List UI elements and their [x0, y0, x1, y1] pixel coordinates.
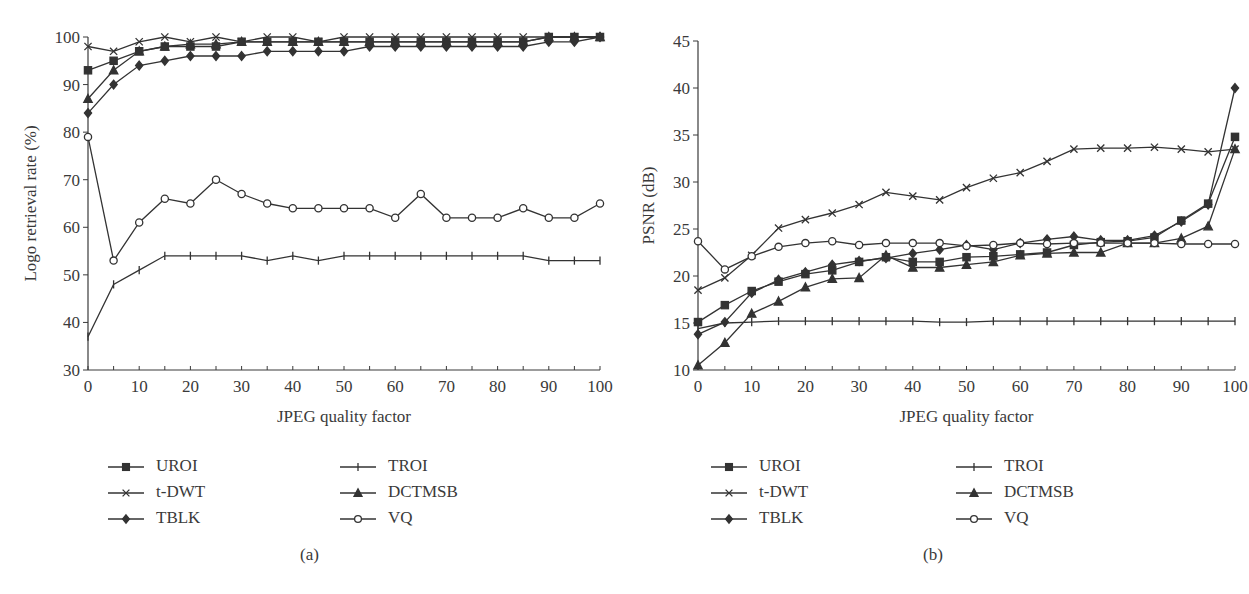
circle-marker-icon — [443, 214, 450, 221]
circle-marker-icon — [856, 241, 863, 248]
legend-label: VQ — [388, 508, 413, 528]
legend-label: UROI — [759, 456, 801, 476]
diamond-marker-icon — [909, 249, 916, 258]
circle-marker-icon — [161, 195, 168, 202]
diamond-legend-icon — [711, 511, 747, 525]
axes: 01020304050607080901001015202530354045 — [673, 32, 1248, 396]
x-tick-label: 70 — [438, 377, 455, 396]
circle-marker-icon — [721, 266, 728, 273]
x-marker-icon — [963, 184, 970, 191]
circle-marker-icon — [187, 200, 194, 207]
diamond-marker-icon — [136, 61, 143, 70]
x-tick-label: 50 — [336, 377, 353, 396]
legend-label: DCTMSB — [1004, 482, 1074, 502]
caption-a: (a) — [300, 545, 319, 565]
circle-legend-icon — [956, 511, 992, 525]
triangle-legend-icon — [956, 485, 992, 499]
circle-marker-icon — [392, 214, 399, 221]
legend-item-vq: VQ — [956, 507, 1029, 529]
circle-marker-icon — [1070, 240, 1077, 247]
circle-marker-icon — [84, 133, 91, 140]
triangle-marker-icon — [1204, 222, 1212, 230]
legend-item-troi: TROI — [956, 455, 1044, 477]
square-marker-icon — [726, 464, 733, 471]
circle-marker-icon — [571, 214, 578, 221]
y-tick-label: 25 — [673, 220, 690, 239]
diamond-marker-icon — [123, 515, 130, 523]
plus-legend-icon — [340, 459, 376, 473]
triangle-marker-icon — [109, 66, 117, 74]
series-t-dwt — [694, 144, 1238, 294]
legend-label: UROI — [156, 456, 198, 476]
square-marker-icon — [123, 464, 130, 471]
x-tick-label: 30 — [851, 377, 868, 396]
circle-marker-icon — [1205, 240, 1212, 247]
circle-marker-icon — [212, 176, 219, 183]
y-tick-label: 35 — [673, 126, 690, 145]
x-tick-label: 0 — [694, 377, 703, 396]
x-tick-label: 10 — [743, 377, 760, 396]
plus-legend-icon — [956, 459, 992, 473]
x-tick-label: 30 — [233, 377, 250, 396]
square-marker-icon — [721, 302, 728, 309]
y-tick-label: 30 — [673, 173, 690, 192]
series-vq — [84, 133, 603, 264]
circle-marker-icon — [289, 205, 296, 212]
x-tick-label: 80 — [1119, 377, 1136, 396]
x-tick-label: 0 — [84, 377, 93, 396]
x-marker-icon — [1043, 158, 1050, 165]
circle-marker-icon — [110, 257, 117, 264]
circle-marker-icon — [936, 240, 943, 247]
circle-marker-icon — [882, 240, 889, 247]
legend-label: DCTMSB — [388, 482, 458, 502]
diamond-marker-icon — [161, 56, 168, 65]
x-tick-label: 10 — [131, 377, 148, 396]
x-tick-label: 60 — [1012, 377, 1029, 396]
legend-label: TBLK — [156, 508, 200, 528]
legend-item-t-dwt: t-DWT — [108, 481, 205, 503]
diamond-marker-icon — [340, 47, 347, 56]
legend-item-uroi: UROI — [711, 455, 801, 477]
x-tick-label: 20 — [182, 377, 199, 396]
circle-marker-icon — [545, 214, 552, 221]
y-tick-label: 10 — [673, 361, 690, 380]
legend-label: VQ — [1004, 508, 1029, 528]
circle-marker-icon — [315, 205, 322, 212]
y-tick-label: 60 — [63, 218, 80, 237]
circle-marker-icon — [1151, 240, 1158, 247]
circle-marker-icon — [596, 200, 603, 207]
legend-item-tblk: TBLK — [711, 507, 803, 529]
y-tick-label: 20 — [673, 267, 690, 286]
square-marker-icon — [110, 57, 117, 64]
diamond-legend-icon — [108, 511, 144, 525]
y-tick-label: 70 — [63, 171, 80, 190]
square-marker-icon — [1231, 133, 1238, 140]
circle-marker-icon — [990, 241, 997, 248]
series-troi — [88, 252, 600, 341]
x-tick-label: 80 — [489, 377, 506, 396]
circle-marker-icon — [971, 516, 978, 523]
y-tick-label: 100 — [55, 28, 81, 47]
x-tick-label: 40 — [284, 377, 301, 396]
legend-item-tblk: TBLK — [108, 507, 200, 529]
x-marker-icon — [775, 224, 782, 231]
square-marker-icon — [84, 67, 91, 74]
circle-marker-icon — [909, 240, 916, 247]
x-tick-label: 40 — [904, 377, 921, 396]
x-tick-label: 100 — [1222, 377, 1248, 396]
diamond-marker-icon — [264, 47, 271, 56]
circle-marker-icon — [355, 516, 362, 523]
y-tick-label: 40 — [673, 79, 690, 98]
legend-item-dctmsb: DCTMSB — [956, 481, 1074, 503]
diamond-marker-icon — [726, 515, 733, 523]
legend-label: TBLK — [759, 508, 803, 528]
axes: 010203040506070809010030405060708090100 — [55, 28, 613, 396]
legend-item-dctmsb: DCTMSB — [340, 481, 458, 503]
series-uroi — [694, 133, 1238, 325]
y-axis-title: Logo retrieval rate (%) — [21, 125, 40, 281]
legend-label: TROI — [388, 456, 428, 476]
x-axis-title: JPEG quality factor — [277, 407, 411, 426]
diamond-marker-icon — [212, 52, 219, 61]
square-legend-icon — [108, 459, 144, 473]
legend-item-uroi: UROI — [108, 455, 198, 477]
